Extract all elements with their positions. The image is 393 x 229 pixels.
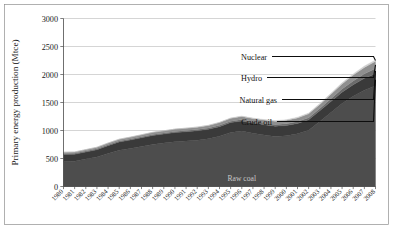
callout-label-hydro: Hydro <box>241 74 262 83</box>
y-axis-title: Primary energy production (Mtce) <box>10 39 20 165</box>
chart-figure: 050010001500200025003000 198019811982198… <box>0 0 393 229</box>
x-tick-label: 2008 <box>362 187 377 202</box>
inline-series-labels: Raw coal <box>228 174 256 183</box>
callout-label-crude-oil: Crude oil <box>241 118 272 127</box>
inline-label-raw-coal: Raw coal <box>228 174 256 183</box>
callout-label-nuclear: Nuclear <box>241 53 267 62</box>
y-tick-label: 2000 <box>42 71 58 80</box>
y-tick-label: 1000 <box>42 127 58 136</box>
area-series-group <box>64 60 376 187</box>
y-tick-label: 3000 <box>42 15 58 24</box>
y-tick-label: 1500 <box>42 99 58 108</box>
callout-label-natural-gas: Natural gas <box>239 96 277 105</box>
x-tick-labels: 1980198119821983198419851986198719881989… <box>50 187 377 202</box>
y-tick-labels: 050010001500200025003000 <box>42 15 58 192</box>
stacked-area-chart: 050010001500200025003000 198019811982198… <box>0 0 393 229</box>
callout-leader-nuclear <box>272 57 376 61</box>
y-tick-label: 2500 <box>42 43 58 52</box>
y-tick-label: 500 <box>46 155 58 164</box>
